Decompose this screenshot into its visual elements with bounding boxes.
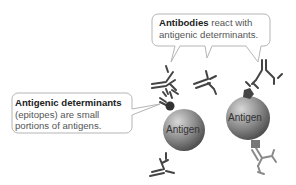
antibodies-description-1: react with [209,17,253,28]
antibodies-description-2: antigenic determinants. [159,29,269,41]
determinants-description-1: (epitopes) are small [15,109,125,121]
determinants-term: Antigenic determinants [15,97,122,108]
antigen-label-1: Antigen [166,124,200,135]
antibody-icon [252,148,276,174]
determinants-callout-text: Antigenic determinants (epitopes) are sm… [15,97,125,132]
antibodies-callout-text: Antibodies react with antigenic determin… [159,17,269,40]
determinants-description-2: portions of antigens. [15,120,125,132]
antibodies-term: Antibodies [159,17,209,28]
antigen-label-2: Antigen [228,112,262,123]
epitope-icon [251,140,260,148]
epitope-icon [166,102,175,111]
